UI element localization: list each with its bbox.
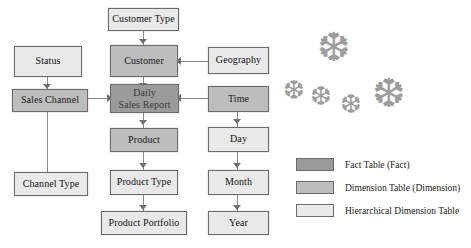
node-label: Year [227, 218, 250, 229]
node-customer[interactable]: Customer [110, 45, 178, 77]
legend-label-dimension: Dimension Table (Dimension) [345, 183, 460, 193]
snowflake-icon: ❆ [310, 84, 332, 110]
legend-swatch-hierarchical-icon [296, 204, 334, 217]
legend-swatch-dimension-icon [296, 181, 334, 194]
node-label: Month [223, 177, 254, 188]
node-label-line-1: Daily [131, 87, 158, 98]
legend-label-fact: Fact Table (Fact) [345, 160, 410, 170]
node-time[interactable]: Time [208, 86, 269, 112]
snowflake-icon: ❆ [340, 92, 362, 118]
node-label: Product Portfolio [107, 218, 182, 229]
arrowhead-down-day [233, 119, 241, 124]
arrowhead-down-year [233, 205, 241, 210]
node-label: Sales Channel [19, 95, 81, 106]
node-sales-channel[interactable]: Sales Channel [12, 89, 88, 112]
node-product-type[interactable]: Product Type [110, 170, 178, 195]
edge-geography-to-customer [178, 61, 209, 62]
arrowhead-down-month [233, 163, 241, 168]
node-label: Geography [214, 55, 263, 66]
legend: Fact Table (Fact) Dimension Table (Dimen… [296, 155, 468, 224]
node-day[interactable]: Day [208, 127, 269, 152]
arrowhead-down-product [139, 120, 147, 125]
legend-label-hierarchical: Hierarchical Dimension Table [345, 206, 459, 216]
node-label: Customer [122, 56, 166, 67]
node-label-line-2: Sales Report [116, 99, 172, 110]
node-status[interactable]: Status [14, 46, 82, 77]
node-label: Customer Type [110, 14, 176, 25]
node-label: Product Type [115, 177, 173, 188]
arrowhead-down-customer [139, 39, 147, 44]
node-month[interactable]: Month [208, 170, 269, 195]
node-channel-type[interactable]: Channel Type [14, 172, 88, 196]
arrowhead-down-product-type [139, 163, 147, 168]
snowflake-icon: ❆ [372, 74, 406, 114]
legend-swatch-fact-icon [296, 158, 334, 171]
node-product[interactable]: Product [110, 128, 178, 152]
node-daily-sales-report[interactable]: Daily Sales Report [110, 84, 179, 113]
node-label: Time [226, 94, 251, 105]
edge-day-to-month [237, 151, 238, 171]
node-label: Product [126, 135, 162, 146]
diagram-canvas: Customer Type Status Customer Geography … [0, 0, 471, 248]
edge-product-to-product-type [143, 151, 144, 171]
node-year[interactable]: Year [208, 211, 269, 235]
legend-row-hierarchical: Hierarchical Dimension Table [296, 201, 468, 220]
node-label: Day [228, 134, 249, 145]
edge-time-to-fact [178, 98, 209, 99]
node-geography[interactable]: Geography [208, 47, 269, 74]
edge-sales-channel-to-channel-type [47, 111, 48, 173]
legend-row-dimension: Dimension Table (Dimension) [296, 178, 468, 197]
snowflake-icon: ❆ [317, 28, 351, 68]
node-product-portfolio[interactable]: Product Portfolio [101, 211, 187, 235]
node-customer-type[interactable]: Customer Type [108, 8, 179, 31]
node-label: Status [33, 56, 62, 67]
arrowhead-down-portfolio [139, 205, 147, 210]
legend-row-fact: Fact Table (Fact) [296, 155, 468, 174]
snowflake-icon: ❆ [283, 78, 305, 104]
node-label: Channel Type [21, 179, 82, 190]
